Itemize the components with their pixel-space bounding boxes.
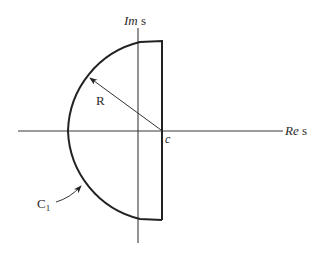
c1-pointer-arrow	[56, 186, 81, 202]
point-c-label: c	[165, 132, 171, 146]
imaginary-axis-label: Im s	[123, 13, 146, 28]
radius-label: R	[96, 93, 105, 108]
real-axis-label: Re s	[284, 123, 307, 138]
contour-diagram: Im s Re s R c C1	[0, 0, 323, 253]
contour-label: C1	[37, 196, 50, 213]
